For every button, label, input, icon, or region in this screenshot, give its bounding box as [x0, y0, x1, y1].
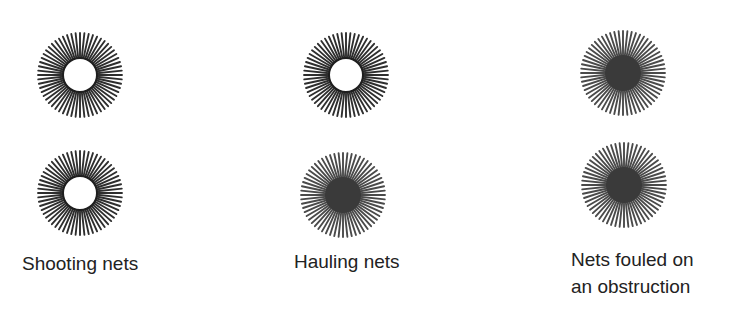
- caption-line: Nets fouled on: [571, 246, 694, 273]
- caption-line: Shooting nets: [22, 253, 138, 274]
- shooting-top-white-light-icon: [35, 30, 125, 120]
- hauling-bottom-red-light-icon: [298, 150, 388, 240]
- caption-shooting-nets: Shooting nets: [22, 250, 138, 277]
- fouled-bottom-red-light-icon: [579, 140, 669, 230]
- caption-nets-fouled: Nets fouled on an obstruction: [571, 246, 694, 300]
- caption-hauling-nets: Hauling nets: [294, 248, 400, 275]
- caption-line: an obstruction: [571, 273, 694, 300]
- shooting-bottom-white-light-icon: [35, 148, 125, 238]
- fouled-top-red-light-icon: [578, 28, 668, 118]
- hauling-top-white-light-icon: [301, 30, 391, 120]
- caption-line: Hauling nets: [294, 251, 400, 272]
